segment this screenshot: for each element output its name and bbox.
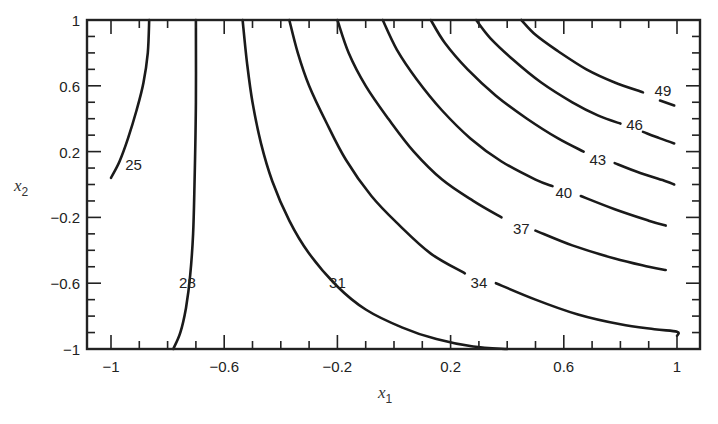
contour-label-46: 46 <box>626 116 643 133</box>
x-tick-label: 0.6 <box>553 358 574 375</box>
contour-line-34-segment-2 <box>496 283 679 336</box>
contour-line-49-segment-2 <box>660 101 674 106</box>
contour-line-28 <box>173 20 196 349</box>
x-tick-label: 1 <box>673 358 681 375</box>
x-axis-title: x1 <box>377 383 393 406</box>
x-tick-label: 0.2 <box>440 358 461 375</box>
y-tick-label: −0.2 <box>50 209 80 226</box>
contour-label-34: 34 <box>471 274 488 291</box>
contour-labels: 252831343740434649 <box>125 82 671 292</box>
contour-line-46-segment-2 <box>643 132 674 144</box>
contour-label-25: 25 <box>125 156 142 173</box>
contour-line-40-segment-2 <box>581 196 666 226</box>
contour-plot-canvas: 252831343740434649 −1−0.6−0.20.20.6110.6… <box>0 0 718 424</box>
y-axis-title: x2 <box>13 176 29 199</box>
x-tick-label: −0.6 <box>209 358 239 375</box>
contour-line-43-segment-2 <box>615 163 675 184</box>
y-tick-label: 0.2 <box>59 144 80 161</box>
contour-label-37: 37 <box>513 220 530 237</box>
x-tick-label: −0.2 <box>323 358 353 375</box>
contour-label-43: 43 <box>589 151 606 168</box>
contour-line-40 <box>383 20 553 186</box>
contour-label-40: 40 <box>555 184 572 201</box>
contour-line-37-segment-2 <box>536 231 666 270</box>
contour-label-49: 49 <box>655 82 672 99</box>
y-tick-label: −0.6 <box>50 275 80 292</box>
y-tick-label: 0.6 <box>59 78 80 95</box>
y-tick-label: 1 <box>72 12 80 29</box>
contour-chart: 252831343740434649 −1−0.6−0.20.20.6110.6… <box>0 0 718 424</box>
contour-lines <box>111 20 679 349</box>
contour-label-31: 31 <box>329 274 346 291</box>
contour-line-37 <box>337 20 501 217</box>
contour-line-43 <box>431 20 584 152</box>
contour-line-46 <box>476 20 620 124</box>
y-tick-label: −1 <box>63 341 80 358</box>
plot-frame <box>87 20 700 349</box>
axis-ticks <box>87 20 700 349</box>
contour-line-25 <box>111 20 149 178</box>
x-tick-label: −1 <box>102 358 119 375</box>
contour-line-34 <box>289 20 465 273</box>
contour-label-28: 28 <box>179 274 196 291</box>
